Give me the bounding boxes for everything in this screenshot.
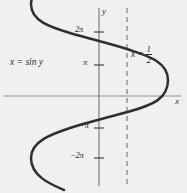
asymptote-prefix: x = [131,50,144,60]
fraction-denominator: 2 [146,55,153,65]
curve-equation-label: x = sin y [10,58,43,68]
tick-label-2pi: 2π [75,25,83,34]
fraction-numerator: 1 [146,45,153,55]
tick-label-pi: π [83,58,87,67]
x-axis-label: x [175,97,179,106]
tick-label-negative-pi: −π [79,121,89,130]
tick-label-negative-2pi: −2π [70,151,84,160]
asymptote-equation-label: x = 1 2 [131,45,152,65]
y-axis-label: y [102,7,106,16]
plot-canvas [0,0,187,193]
one-half-fraction: 1 2 [146,45,153,65]
sine-curve-figure: y x 2π π −π −2π x = sin y x = 1 2 [0,0,187,193]
